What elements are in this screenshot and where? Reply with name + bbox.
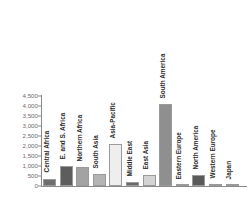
bar-group: Japan bbox=[226, 96, 239, 186]
y-axis-labels: 05001,0001,5002,0002,5003,0003,5004,0004… bbox=[0, 0, 38, 211]
bar-group: Middle East bbox=[126, 96, 139, 186]
bar-group: E. and S. Africa bbox=[60, 96, 73, 186]
bar-group: Eastern Europe bbox=[176, 96, 189, 186]
bar-category-label: Japan bbox=[226, 161, 232, 179]
y-tick-label: 1,000 bbox=[23, 163, 38, 169]
y-tick-label: 4,000 bbox=[23, 103, 38, 109]
bar-group: East Asia bbox=[143, 96, 156, 186]
bar bbox=[176, 184, 189, 186]
bar bbox=[126, 182, 139, 186]
bar-category-label: South Asia bbox=[93, 135, 99, 168]
bar-category-label: Central Africa bbox=[43, 131, 49, 173]
bar-category-label: North America bbox=[192, 125, 198, 169]
bar-group: Northern Africa bbox=[76, 96, 89, 186]
bar-category-label: Asia-Pacific bbox=[109, 102, 115, 138]
bar-series: Central AfricaE. and S. AfricaNorthern A… bbox=[42, 0, 247, 211]
bar bbox=[143, 175, 156, 186]
bar-category-label: South America bbox=[159, 53, 165, 98]
bar-category-label: East Asia bbox=[143, 140, 149, 169]
bar bbox=[60, 166, 73, 186]
bar-group: South Asia bbox=[93, 96, 106, 186]
bar-group: Central Africa bbox=[43, 96, 56, 186]
bar bbox=[109, 144, 122, 186]
y-tick-label: 3,000 bbox=[23, 123, 38, 129]
bar bbox=[76, 167, 89, 186]
bar bbox=[159, 104, 172, 186]
bar-category-label: E. and S. Africa bbox=[60, 113, 66, 160]
bar-category-label: Northern Africa bbox=[76, 115, 82, 162]
bar-group: Western Europe bbox=[209, 96, 222, 186]
bar bbox=[226, 184, 239, 186]
y-tick-label: 3,500 bbox=[23, 113, 38, 119]
y-tick-label: 1,500 bbox=[23, 153, 38, 159]
bar bbox=[192, 175, 205, 186]
bar-group: South America bbox=[159, 96, 172, 186]
bar-category-label: Middle East bbox=[126, 141, 132, 177]
bar-group: North America bbox=[192, 96, 205, 186]
y-tick-label: 4,500 bbox=[23, 93, 38, 99]
y-tick-label: 500 bbox=[28, 173, 38, 179]
bar-chart: 05001,0001,5002,0002,5003,0003,5004,0004… bbox=[0, 0, 252, 211]
bar-group: Asia-Pacific bbox=[109, 96, 122, 186]
y-tick-label: 2,500 bbox=[23, 133, 38, 139]
y-tick-label: 2,000 bbox=[23, 143, 38, 149]
bar-category-label: Eastern Europe bbox=[176, 132, 182, 179]
bar bbox=[93, 174, 106, 186]
bar-category-label: Western Europe bbox=[209, 129, 215, 178]
bar bbox=[43, 179, 56, 186]
bar bbox=[209, 184, 222, 186]
